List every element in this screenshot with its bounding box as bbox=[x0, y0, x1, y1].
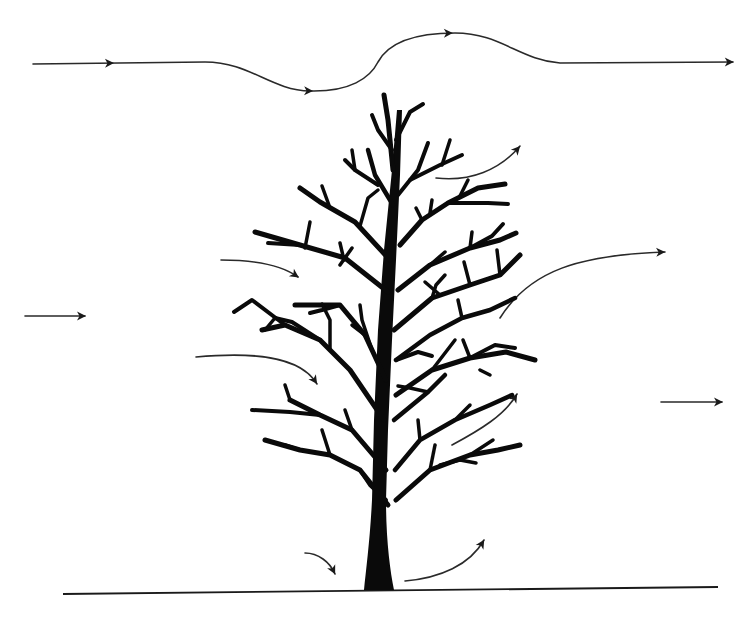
tree-branch bbox=[464, 262, 470, 285]
tree-branch bbox=[360, 190, 378, 226]
tree-branch bbox=[305, 222, 310, 248]
tree-branch bbox=[322, 430, 330, 455]
tree-branch bbox=[470, 232, 472, 248]
tree-branch bbox=[396, 352, 432, 360]
tree-branch bbox=[396, 298, 515, 360]
wind-arrow-left-into-crown-upper bbox=[221, 260, 298, 277]
tree-branch bbox=[255, 232, 388, 292]
tree-branch bbox=[398, 143, 428, 195]
tree-branch bbox=[480, 370, 490, 375]
tree-branch bbox=[440, 460, 476, 465]
arrowhead-icon bbox=[476, 537, 488, 549]
wind-arrow-top-streamline bbox=[33, 33, 733, 91]
tree-branch bbox=[394, 375, 445, 420]
tree-branch bbox=[268, 243, 300, 245]
tree-branch bbox=[497, 250, 500, 275]
tree-branch bbox=[463, 340, 470, 358]
wind-flow-tree-diagram bbox=[0, 0, 751, 617]
wind-arrow-base-right-up bbox=[405, 540, 484, 581]
tree-branch bbox=[448, 203, 508, 204]
tree-branch bbox=[295, 305, 386, 380]
wind-arrow-right-lift-out bbox=[500, 252, 665, 318]
tree-branch bbox=[396, 445, 520, 500]
arrowhead-icon bbox=[327, 564, 339, 576]
tree-branch bbox=[285, 445, 300, 450]
tree-branch bbox=[234, 300, 285, 325]
tree-branch bbox=[418, 420, 420, 440]
wind-arrow-left-into-crown-lower bbox=[196, 355, 317, 384]
tree-branch bbox=[430, 200, 432, 213]
tree-branch bbox=[416, 208, 422, 220]
wind-arrow-base-left-down bbox=[305, 553, 335, 574]
arrowhead-icon bbox=[289, 269, 302, 282]
tree-branch bbox=[458, 300, 462, 318]
tree-branch bbox=[285, 385, 290, 400]
tree-branch bbox=[384, 95, 393, 170]
